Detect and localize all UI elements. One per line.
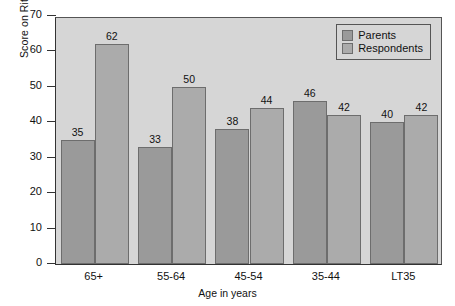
bar-value-label: 42 [338,101,350,113]
x-axis-label-LT35: LT35 [369,270,437,282]
legend-swatch-icon [342,30,353,41]
legend-label: Parents [358,29,396,42]
bar-value-label: 40 [381,108,393,120]
bar-respondents-55-64: 50 [172,87,206,264]
legend-item-respondents: Respondents [342,42,423,55]
y-axis-tick-label: 50 [30,79,42,91]
chart-legend: Parents Respondents [336,24,431,60]
x-axis-label-55-64: 55-64 [137,270,205,282]
bar-chart: Score on Ritual Observance Index 0102030… [0,0,455,306]
bar-respondents-65+: 62 [95,44,129,264]
y-axis-tick: 30 [47,157,56,158]
y-axis-tick: 60 [47,50,56,51]
bar-value-label: 44 [261,94,273,106]
y-axis-tick: 0 [47,263,56,264]
legend-swatch-icon [342,43,353,54]
y-axis-tick: 10 [47,228,56,229]
legend-item-parents: Parents [342,29,423,42]
bar-parents-45-54: 38 [215,129,249,264]
y-axis-tick: 70 [47,15,56,16]
bar-value-label: 35 [72,126,84,138]
bar-respondents-45-54: 44 [250,108,284,264]
y-axis-tick: 40 [47,121,56,122]
y-axis-tick-label: 30 [30,150,42,162]
bar-parents-35-44: 46 [293,101,327,264]
y-axis-tick-label: 60 [30,43,42,55]
bar-value-label: 33 [149,133,161,145]
bar-value-label: 62 [106,30,118,42]
y-axis-tick-label: 0 [36,256,42,268]
bar-value-label: 50 [183,73,195,85]
y-axis-tick-label: 10 [30,221,42,233]
y-axis-tick-label: 40 [30,114,42,126]
legend-label: Respondents [358,42,423,55]
bar-value-label: 42 [416,101,428,113]
x-axis-label-35-44: 35-44 [292,270,360,282]
bar-parents-65+: 35 [61,140,95,264]
y-axis-tick: 50 [47,86,56,87]
bar-parents-LT35: 40 [370,122,404,264]
bar-parents-55-64: 33 [138,147,172,264]
bar-respondents-35-44: 42 [327,115,361,264]
y-axis-title: Score on Ritual Observance Index [18,0,30,58]
x-axis-label-65+: 65+ [60,270,128,282]
x-axis-title: Age in years [0,287,455,299]
x-axis-label-45-54: 45-54 [214,270,282,282]
bar-respondents-LT35: 42 [404,115,438,264]
y-axis-tick-label: 70 [30,8,42,20]
y-axis-tick: 20 [47,192,56,193]
y-axis-tick-label: 20 [30,185,42,197]
plot-area: Score on Ritual Observance Index 0102030… [55,17,442,265]
bar-value-label: 38 [227,115,239,127]
bar-value-label: 46 [304,87,316,99]
